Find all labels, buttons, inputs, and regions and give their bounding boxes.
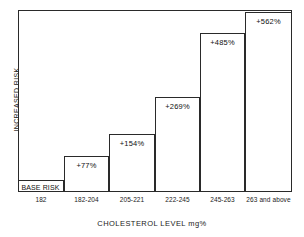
x-axis-title: CHOLESTEROL LEVEL mg% bbox=[0, 219, 304, 228]
bar-value-label: +485% bbox=[201, 38, 244, 47]
bar-245-263: +485% bbox=[200, 33, 245, 192]
x-tick-label-2: 205-221 bbox=[109, 196, 155, 203]
bar-222-245: +269% bbox=[155, 97, 200, 192]
x-tick-label-4: 245-263 bbox=[200, 196, 245, 203]
bar-value-label: BASE RISK bbox=[18, 184, 63, 191]
x-tick-label-3: 222-245 bbox=[155, 196, 200, 203]
x-tick-label-5: 263 and above bbox=[241, 196, 296, 203]
bar-series: BASE RISK +77% +154% +269% +485% +562% bbox=[18, 10, 292, 192]
x-axis-tick-labels: 182 182-204 205-221 222-245 245-263 263 … bbox=[18, 196, 292, 210]
x-tick-label-0: 182 bbox=[18, 196, 64, 203]
bar-value-label: +154% bbox=[110, 139, 154, 148]
bar-182-204: +77% bbox=[64, 156, 109, 192]
bar-base-risk: BASE RISK bbox=[18, 180, 64, 192]
bar-value-label: +77% bbox=[65, 161, 108, 170]
bar-263-and-above: +562% bbox=[245, 12, 292, 192]
chart-figure: INCREASED RISK BASE RISK +77% +154% +269… bbox=[0, 0, 304, 237]
bar-205-221: +154% bbox=[109, 134, 155, 192]
bar-value-label: +562% bbox=[246, 17, 291, 26]
x-tick-label-1: 182-204 bbox=[64, 196, 109, 203]
bar-value-label: +269% bbox=[156, 102, 199, 111]
